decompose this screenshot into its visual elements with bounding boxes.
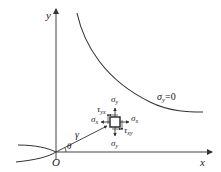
stress-diagram: y x O σy=0 γ θ σy σy σx σx τyx τxy [0,0,221,172]
sigma-x-right-label: σx [131,113,138,124]
sigma-y-zero-curve [77,13,203,112]
x-axis-label: x [199,156,205,168]
sigma-y-bottom-label: σy [111,138,118,149]
tau-xy-label: τxy [124,125,133,136]
crack-upper-face [18,145,56,152]
sigma-y-top-label: σy [111,94,118,105]
sigma-x-left-label: σx [91,114,98,125]
tau-yx-label: τyx [97,104,106,115]
origin-label: O [52,156,60,168]
radius-label: γ [75,129,80,140]
y-axis-label: y [45,9,51,21]
theta-label: θ [67,141,72,151]
curve-label: σy=0 [157,91,176,104]
crack-lower-face [16,152,56,162]
radius-vector [56,126,107,152]
theta-arc [65,147,66,152]
